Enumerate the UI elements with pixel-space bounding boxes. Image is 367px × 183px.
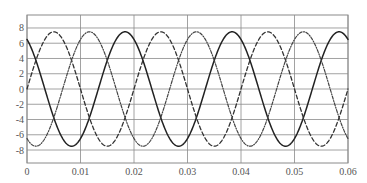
x-axis-tick-labels: 00.010.020.030.040.050.06	[25, 166, 357, 177]
y-tick-label: 8	[19, 22, 24, 33]
x-tick-label: 0	[25, 166, 30, 177]
x-tick-label: 0.01	[72, 166, 90, 177]
x-tick-label: 0.05	[286, 166, 304, 177]
y-axis-tick-labels: 86420-2-4-6-8	[16, 22, 24, 155]
y-tick-label: 2	[19, 68, 24, 79]
y-tick-label: 0	[19, 84, 24, 95]
x-tick-label: 0.06	[339, 166, 357, 177]
y-tick-label: -8	[16, 145, 24, 156]
y-tick-label: 6	[19, 38, 24, 49]
y-tick-label: -2	[16, 99, 24, 110]
y-tick-label: 4	[19, 53, 24, 64]
y-tick-label: -6	[16, 129, 24, 140]
x-tick-label: 0.03	[179, 166, 197, 177]
chart: 86420-2-4-6-8 00.010.020.030.040.050.06	[0, 0, 367, 183]
y-tick-label: -4	[16, 114, 24, 125]
x-tick-label: 0.02	[125, 166, 143, 177]
x-tick-label: 0.04	[232, 166, 250, 177]
